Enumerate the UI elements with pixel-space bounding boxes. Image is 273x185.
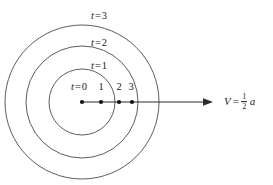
figure-canvas: t=3 t=2 t=1 t=0 1 2 3 V = 1 2 a [0, 0, 273, 185]
source-dot-3 [130, 100, 134, 104]
point-label-3: 3 [128, 82, 133, 93]
ring-label-t1: t=1 [91, 61, 107, 72]
origin-label-value: 0 [82, 81, 87, 92]
source-dot-0 [80, 100, 84, 104]
ring-label-t3-eq: = [94, 10, 102, 21]
ring-label-t1-eq: = [94, 60, 102, 71]
one-half-fraction: 1 2 [241, 93, 247, 111]
axis-arrowhead-icon [203, 98, 213, 106]
fraction-numerator: 1 [241, 93, 247, 101]
ring-label-t1-value: 1 [102, 60, 107, 71]
point-label-1: 1 [98, 82, 103, 93]
ring-label-t2-eq: = [94, 37, 102, 48]
ring-label-t3: t=3 [91, 11, 107, 22]
point-label-2: 2 [116, 82, 121, 93]
ring-label-t2: t=2 [91, 38, 107, 49]
origin-time-label: t=0 [71, 82, 87, 93]
velocity-equals-sign: = [233, 97, 239, 108]
acceleration-symbol: a [250, 97, 256, 108]
velocity-variable: V [224, 97, 231, 108]
ring-label-t2-value: 2 [102, 37, 107, 48]
velocity-equation-label: V = 1 2 a [224, 93, 255, 111]
fraction-denominator: 2 [241, 102, 247, 111]
source-dot-1 [99, 100, 103, 104]
source-dot-2 [117, 100, 121, 104]
ring-label-t3-value: 3 [102, 10, 107, 21]
origin-label-eq: = [74, 81, 82, 92]
